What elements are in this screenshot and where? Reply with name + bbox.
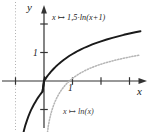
y-tick-label-1: 1	[33, 49, 38, 59]
y-axis-label: y	[27, 2, 32, 13]
curve-label-reference: x ↦ ln(x)	[63, 108, 94, 116]
x-tick-label-1: 1	[68, 84, 73, 94]
curve-ln-x	[46, 55, 140, 132]
y-axis-arrow-icon	[41, 5, 47, 14]
curve-label-main: x ↦ 1,5·ln(x+1)	[52, 14, 105, 22]
x-axis-arrow-icon	[139, 78, 148, 84]
function-graph-figure: y x 1 1 x ↦ 1,5·ln(x+1) x ↦ ln(x)	[0, 0, 149, 132]
x-axis-label: x	[137, 86, 142, 97]
